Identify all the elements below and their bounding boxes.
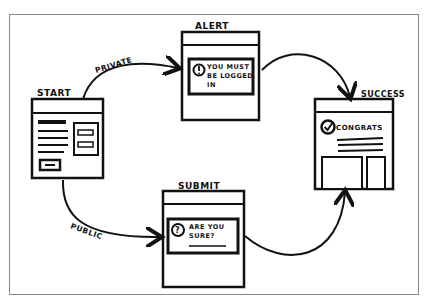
arrow-submit-to-success xyxy=(245,192,345,255)
success-label: SUCCESS xyxy=(361,90,405,99)
flow-diagram: START ALERT YOU MUST BE LOGGED IN SUBMIT… xyxy=(0,0,429,306)
alert-label: ALERT xyxy=(195,21,229,31)
submit-message-line1: ARE YOU xyxy=(189,223,225,231)
alert-screen: ALERT YOU MUST BE LOGGED IN xyxy=(182,21,259,120)
submit-label: SUBMIT xyxy=(178,181,220,191)
alert-message-line3: IN xyxy=(207,81,216,89)
submit-screen: SUBMIT ? ARE YOU SURE? xyxy=(163,181,244,287)
alert-message-line2: BE LOGGED xyxy=(207,72,253,80)
edge-label-private: PRIVATE xyxy=(94,55,133,75)
arrow-alert-to-success xyxy=(262,54,350,97)
question-circle-icon: ? xyxy=(175,226,180,235)
start-label: START xyxy=(37,88,71,98)
alert-message-line1: YOU MUST xyxy=(206,63,249,71)
success-message: CONGRATS xyxy=(336,124,383,132)
success-screen: SUCCESS CONGRATS xyxy=(315,90,405,189)
start-screen: START xyxy=(32,88,103,178)
submit-message-line2: SURE? xyxy=(189,232,215,240)
